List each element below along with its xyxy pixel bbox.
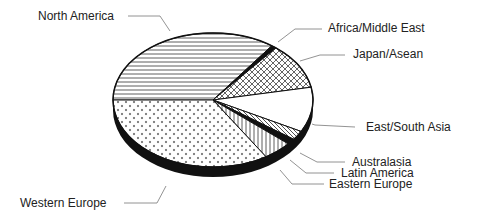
label-western-europe: Western Europe: [20, 197, 107, 210]
pie-slices: [113, 33, 313, 167]
label-north-america: North America: [38, 10, 114, 23]
label-eastern-europe: Eastern Europe: [329, 178, 412, 191]
label-africa-middle-east: Africa/Middle East: [328, 22, 425, 35]
label-japan-asean: Japan/Asean: [353, 48, 423, 61]
label-east-south-asia: East/South Asia: [366, 121, 451, 134]
